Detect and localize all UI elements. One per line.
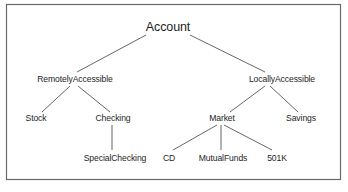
node-remotely-accessible: RemotelyAccessible (37, 74, 113, 84)
node-savings: Savings (286, 113, 316, 123)
node-cd: CD (163, 153, 175, 163)
node-market: Market (209, 113, 235, 123)
node-account: Account (146, 20, 191, 34)
node-special-checking: SpecialChecking (84, 153, 147, 163)
node-501k: 501K (267, 153, 287, 163)
node-locally-accessible: LocallyAccessible (249, 74, 315, 84)
node-stock: Stock (26, 113, 48, 123)
node-checking: Checking (95, 113, 130, 123)
class-hierarchy-diagram: Account RemotelyAccessible LocallyAccess… (0, 0, 348, 192)
node-mutual-funds: MutualFunds (199, 153, 248, 163)
